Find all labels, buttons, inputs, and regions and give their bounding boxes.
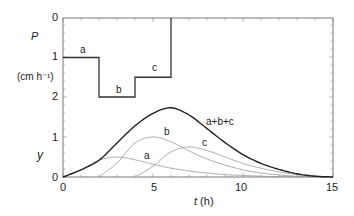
curve-label-a: a — [144, 150, 150, 161]
step-label-b: b — [116, 84, 122, 95]
curve-b — [99, 137, 333, 177]
step-label-c: c — [152, 62, 157, 73]
curve-label-sum: a+b+c — [206, 116, 234, 127]
figure: 0 1 2 P (cm h⁻¹) 1 0 y 0 5 10 15 t (h) a… — [0, 0, 354, 216]
x-tick-0: 0 — [60, 181, 66, 193]
x-tick-15: 15 — [326, 181, 338, 193]
p-tick-1: 1 — [52, 50, 58, 62]
x-tick-5: 5 — [151, 181, 157, 193]
curve-label-b: b — [164, 126, 170, 137]
x-tick-10: 10 — [235, 181, 247, 193]
step-label-a: a — [80, 44, 86, 55]
p-axis-label: P — [31, 30, 38, 42]
curve-label-c: c — [202, 137, 207, 148]
y-tick-1: 1 — [52, 131, 58, 143]
y-tick-0: 0 — [52, 171, 58, 183]
y-axis-label: y — [37, 148, 43, 162]
curve-c — [135, 147, 333, 177]
p-tick-0: 0 — [52, 11, 58, 23]
p-tick-2: 2 — [52, 90, 58, 102]
plot-canvas — [0, 0, 354, 216]
x-axis-label: t (h) — [194, 195, 214, 207]
p-units-label: (cm h⁻¹) — [17, 71, 54, 82]
curve-sum — [63, 108, 333, 177]
